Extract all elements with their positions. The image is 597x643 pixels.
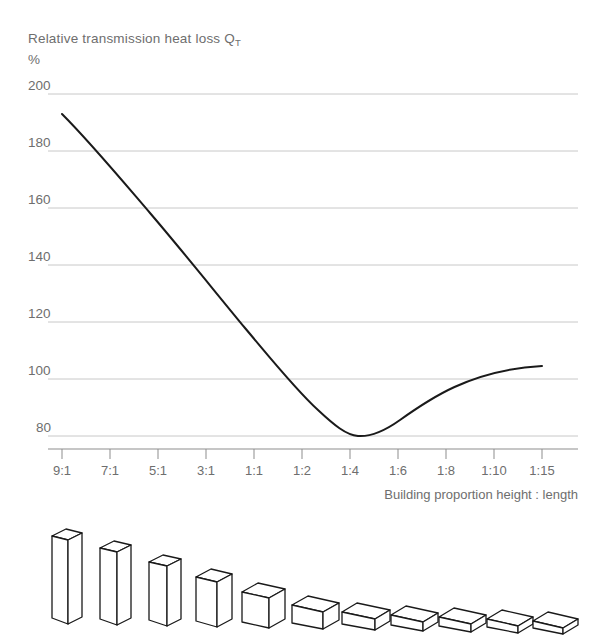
building-block-3-1	[196, 569, 232, 627]
plot-area	[0, 0, 597, 505]
building-block-1-4	[342, 603, 390, 630]
building-block-1-8	[439, 608, 486, 632]
building-block-1-10	[487, 610, 533, 633]
y-tick-label-100: 100	[28, 363, 51, 378]
gridlines	[48, 94, 578, 449]
chart-figure: Relative transmission heat loss QT %	[0, 0, 597, 643]
y-tick-label-120: 120	[28, 306, 51, 321]
building-diagram-row	[0, 505, 597, 643]
building-block-1-6	[391, 606, 438, 631]
building-block-1-2	[292, 596, 339, 629]
x-tick-label-1-15: 1:15	[512, 463, 572, 478]
y-tick-label-180: 180	[28, 135, 51, 150]
building-block-1-1	[242, 583, 285, 628]
x-axis-caption: Building proportion height : length	[384, 487, 578, 502]
y-tick-label-200: 200	[28, 78, 51, 93]
building-block-7-1	[100, 541, 131, 625]
y-tick-label-160: 160	[28, 192, 51, 207]
heat-loss-curve	[62, 114, 542, 436]
y-tick-label-140: 140	[28, 249, 51, 264]
y-tick-label-80: 80	[36, 420, 51, 435]
building-block-1-15	[533, 612, 578, 634]
building-block-5-1	[149, 555, 181, 626]
x-axis-ticks	[62, 449, 542, 459]
building-block-9-1	[52, 529, 82, 624]
